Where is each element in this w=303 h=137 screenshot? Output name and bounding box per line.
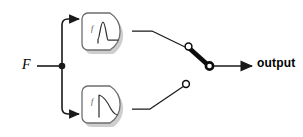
top-block-outline <box>82 13 120 50</box>
bottom-block-output-wire <box>132 86 184 109</box>
output-label: output <box>257 57 296 69</box>
branch-wire-top <box>62 19 79 66</box>
switch-lower-terminal[interactable] <box>183 81 190 88</box>
bottom-block-function-label: f <box>91 97 93 106</box>
top-block[interactable] <box>82 13 120 50</box>
switch-pole[interactable] <box>206 62 213 69</box>
bottom-block[interactable] <box>82 86 121 123</box>
top-block-function-label: f <box>91 24 93 33</box>
input-label: F <box>22 58 31 72</box>
branch-wire-bottom <box>62 66 79 114</box>
top-block-output-wire <box>132 31 185 47</box>
switch-upper-terminal[interactable] <box>185 43 192 50</box>
input-wire-group <box>37 63 65 70</box>
switch-blade[interactable] <box>189 48 208 65</box>
block-diagram: F output f f <box>0 0 303 137</box>
selector-switch[interactable] <box>183 43 213 87</box>
bottom-block-outline <box>82 86 120 123</box>
